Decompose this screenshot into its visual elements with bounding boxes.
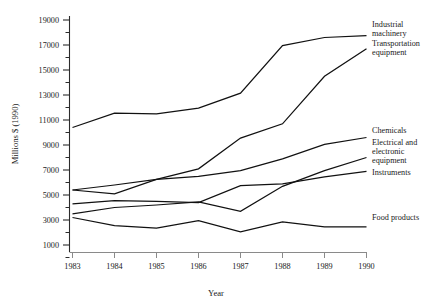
y-tick-label-19000: 19000	[39, 16, 59, 25]
x-tick-label-1989: 1989	[316, 262, 332, 271]
line-chart: 1000 3000 5000 7000 9000 11000 13000 150…	[0, 0, 423, 307]
series-label-industrial-machinery-line1: Industrial	[372, 20, 404, 29]
y-tick-label-11000: 11000	[39, 116, 59, 125]
chart-figure: 1000 3000 5000 7000 9000 11000 13000 150…	[0, 0, 423, 307]
x-tick-label-1984: 1984	[106, 262, 122, 271]
series-label-electrical-line2: electronic	[372, 147, 405, 156]
y-axis-title: Millions $ (1990)	[10, 104, 20, 165]
y-tick-label-13000: 13000	[39, 91, 59, 100]
x-tick-label-1985: 1985	[148, 262, 164, 271]
series-label-industrial-machinery-line2: machinery	[372, 29, 407, 38]
y-tick-label-17000: 17000	[39, 41, 59, 50]
x-tick-label-1990: 1990	[358, 262, 374, 271]
series-label-transportation-equipment-line2: equipment	[372, 48, 407, 57]
series-label-chemicals: Chemicals	[372, 126, 407, 135]
x-axis-title: Year	[208, 288, 224, 298]
y-tick-label-9000: 9000	[43, 141, 59, 150]
chart-background	[0, 0, 423, 307]
x-tick-label-1986: 1986	[190, 262, 206, 271]
series-label-food-products: Food products	[372, 213, 419, 222]
y-tick-label-1000: 1000	[43, 241, 59, 250]
y-tick-label-3000: 3000	[43, 216, 59, 225]
series-label-electrical-line1: Electrical and	[372, 138, 417, 147]
series-label-transportation-equipment-line1: Transportation	[372, 39, 420, 48]
x-tick-label-1987: 1987	[232, 262, 248, 271]
y-tick-label-15000: 15000	[39, 66, 59, 75]
x-tick-label-1983: 1983	[64, 262, 80, 271]
series-label-instruments: Instruments	[372, 168, 411, 177]
y-tick-label-7000: 7000	[43, 166, 59, 175]
y-tick-label-5000: 5000	[43, 191, 59, 200]
series-label-electrical-line3: equipment	[372, 156, 407, 165]
x-tick-label-1988: 1988	[274, 262, 290, 271]
